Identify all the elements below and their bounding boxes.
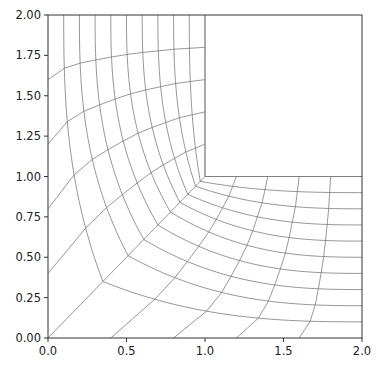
mesh-radial-line (48, 47, 205, 79)
y-tick-label: 0.00 (15, 331, 41, 345)
mesh-lines (48, 15, 362, 338)
mesh-plot: 0.00.51.01.52.0 0.000.250.500.751.001.25… (0, 0, 381, 372)
y-tick-label: 1.00 (15, 170, 41, 184)
mesh-arc-line (205, 15, 362, 177)
mesh-radial-line (48, 177, 205, 339)
y-tick-label: 2.00 (15, 8, 41, 22)
mesh-arc-line (189, 15, 362, 193)
mesh-radial-line (299, 177, 330, 339)
mesh-radial-line (111, 177, 237, 339)
y-tick-label: 0.25 (15, 291, 41, 305)
mesh-radial-line (48, 144, 205, 273)
x-tick-label: 0.0 (39, 344, 57, 358)
x-tick-label: 2.0 (353, 344, 371, 358)
mesh-radial-line (236, 177, 299, 339)
y-tick-label: 0.75 (15, 210, 41, 224)
notch-boundary (205, 15, 362, 177)
x-tick-label: 1.5 (274, 344, 292, 358)
y-tick-label: 1.25 (15, 129, 41, 143)
mesh-radial-line (48, 80, 205, 145)
y-tick-label: 1.50 (15, 89, 41, 103)
y-tick-label: 0.50 (15, 250, 41, 264)
y-tick-label: 1.75 (15, 48, 41, 62)
x-tick-label: 0.5 (117, 344, 135, 358)
x-axis-ticks: 0.00.51.01.52.0 (39, 338, 371, 358)
x-tick-label: 1.0 (196, 344, 214, 358)
y-axis-ticks: 0.000.250.500.751.001.251.501.752.00 (15, 8, 48, 345)
